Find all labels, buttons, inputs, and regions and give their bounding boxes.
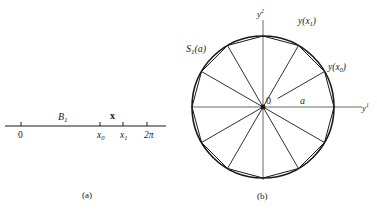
figure: 0x0x12π B1 x (a) 0 a y1 y2 S1(a) y(x1) y…: [0, 0, 377, 214]
spoke-10: [263, 107, 299, 168]
point-label-y-x0: y(x0): [327, 62, 346, 73]
tick-label-0: 0: [18, 130, 23, 140]
axis-label-y1: y1: [361, 102, 369, 113]
spoke-7: [202, 107, 263, 143]
spoke-11: [263, 107, 324, 143]
axis-label-y2: y2: [256, 8, 264, 19]
tick-marks: 0x0x12π: [18, 122, 154, 141]
spoke-4: [228, 46, 264, 107]
radius-label: a: [300, 95, 305, 106]
spoke-8: [228, 107, 264, 168]
origin-label: 0: [266, 95, 271, 106]
tick-label-1: x0: [96, 130, 105, 141]
spoke-5: [202, 72, 263, 108]
tick-label-2: x1: [119, 130, 127, 141]
tick-label-3: 2π: [144, 130, 154, 140]
label-x-bold: x: [110, 110, 115, 121]
caption-a: (a): [82, 190, 92, 200]
circle-label-S1a: S1(a): [186, 43, 207, 56]
panel-a-number-line: 0x0x12π B1 x (a): [5, 110, 166, 200]
origin-dot: [261, 105, 266, 110]
panel-b-circle-diagram: 0 a y1 y2 S1(a) y(x1) y(x0) (b): [186, 8, 369, 201]
label-B1: B1: [58, 111, 68, 124]
point-label-y-x1: y(x1): [297, 16, 316, 27]
caption-b: (b): [257, 191, 268, 201]
